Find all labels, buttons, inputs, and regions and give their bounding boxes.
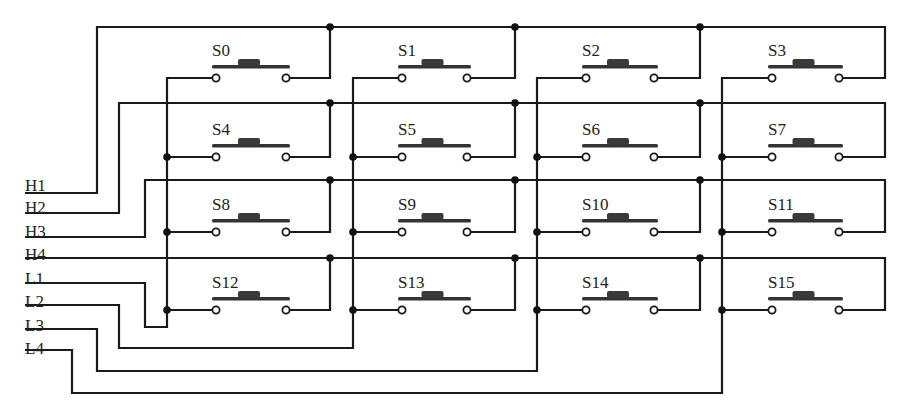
switch-terminal [650,306,657,313]
junction-dot [326,176,334,184]
switch-label: S14 [582,273,609,292]
junction-dot [349,153,357,161]
switch-terminal [768,74,775,81]
switch-button-cap [607,291,629,298]
switch-terminal [398,306,405,313]
junction-dot [533,153,541,161]
junction-dot [349,228,357,236]
row-drop [654,180,700,232]
junction-dot [349,306,357,314]
switch-label: S4 [212,120,230,139]
switch-terminal [212,153,219,160]
switch-label: S6 [582,120,600,139]
switch-terminal [282,306,289,313]
junction-dot [533,306,541,314]
switch-terminal [212,74,219,81]
switch-button-cap [793,138,815,145]
switch-terminal [282,228,289,235]
push-button-switch: S0 [212,41,290,82]
switch-terminal [398,153,405,160]
switch-button-cap [793,59,815,66]
junction-dot [326,99,334,107]
switch-label: S13 [398,273,424,292]
switch-terminal [212,228,219,235]
switch-button-cap [607,213,629,220]
line-label-H1: H1 [25,176,46,195]
row-drop [286,27,330,78]
switch-terminal [463,74,470,81]
switch-button-cap [238,59,260,66]
switch-terminal [835,153,842,160]
switch-button-cap [793,291,815,298]
row-drop [467,258,515,310]
switch-button-cap [238,291,260,298]
push-button-switch: S11 [768,195,843,236]
switch-button-cap [793,213,815,220]
row-bus-H1 [25,27,885,193]
switch-button-cap [422,59,444,66]
switch-terminal [835,74,842,81]
junction-dot [696,99,704,107]
switch-terminal [282,74,289,81]
switch-terminal [768,306,775,313]
junction-dot [163,306,171,314]
switch-label: S0 [212,41,230,60]
switch-button-cap [422,138,444,145]
switch-terminal [463,228,470,235]
switch-terminal [650,153,657,160]
switch-button-cap [607,138,629,145]
switch-label: S8 [212,195,230,214]
row-drop [654,103,700,157]
junction-dot [533,228,541,236]
switch-label: S3 [768,41,786,60]
row-drop [467,103,515,157]
junction-dot [326,23,334,31]
row-drop [654,27,700,78]
junction-dot [696,254,704,262]
push-button-switch: S6 [582,120,658,161]
junction-dot [696,23,704,31]
line-label-H4: H4 [25,245,46,264]
line-label-L1: L1 [25,269,44,288]
switch-terminal [768,153,775,160]
switch-label: S7 [768,120,786,139]
switch-terminal [582,74,589,81]
row-bus-H3 [25,180,885,237]
switch-terminal [463,153,470,160]
switch-button-cap [422,291,444,298]
switch-terminal [212,306,219,313]
switch-terminal [282,153,289,160]
switch-terminal [835,228,842,235]
line-label-L2: L2 [25,292,44,311]
switch-label: S15 [768,273,794,292]
push-button-switch: S4 [212,120,290,161]
switch-terminal [398,74,405,81]
push-button-switch: S13 [398,273,471,314]
switch-terminal [650,74,657,81]
push-button-switch: S3 [768,41,843,82]
switch-button-cap [238,213,260,220]
junction-dot [326,254,334,262]
switch-terminal [582,306,589,313]
switch-terminal [835,306,842,313]
switch-label: S5 [398,120,416,139]
line-label-H2: H2 [25,198,46,217]
push-button-switch: S14 [582,273,658,314]
line-label-L3: L3 [25,316,44,335]
switch-label: S10 [582,195,608,214]
schematic: H1H2H3H4L1L2L3L4S0S1S2S3S4S5S6S7S8S9S10S… [0,0,899,412]
switch-label: S9 [398,195,416,214]
push-button-switch: S10 [582,195,658,236]
push-button-switch: S2 [582,41,658,82]
switch-terminal [582,153,589,160]
keypad-matrix-diagram: H1H2H3H4L1L2L3L4S0S1S2S3S4S5S6S7S8S9S10S… [0,0,899,412]
junction-dot [718,228,726,236]
switch-button-cap [607,59,629,66]
row-drop [467,27,515,78]
junction-dot [511,23,519,31]
row-drop [286,258,330,310]
push-button-switch: S1 [398,41,471,82]
junction-dot [511,176,519,184]
switch-terminal [768,228,775,235]
junction-dot [163,228,171,236]
